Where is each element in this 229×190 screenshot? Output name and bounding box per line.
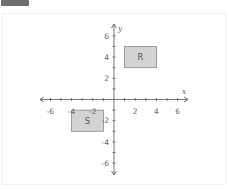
y-tick-label: 6 [104,32,109,41]
x-tick-label: 6 [175,107,180,116]
y-tick-label: 4 [104,53,109,62]
x-tick-label: -2 [89,107,97,116]
rectangle-s-label: S [85,116,90,126]
y-axis-label: y [117,24,123,33]
x-axis-label: x [182,87,187,96]
y-tick-label: -2 [102,116,110,125]
y-tick-label: -4 [102,138,110,147]
rectangle-r-label: R [138,52,144,62]
y-tick-label: -6 [102,159,110,168]
y-tick-label: 2 [104,74,109,83]
coordinate-plane: x y -6 -4 -2 2 4 6 6 4 2 -2 -4 -6 R S [0,0,229,190]
x-tick-label: 2 [133,107,138,116]
x-tick-label: 4 [154,107,159,116]
x-tick-label: -4 [68,107,76,116]
x-tick-label: -6 [47,107,55,116]
